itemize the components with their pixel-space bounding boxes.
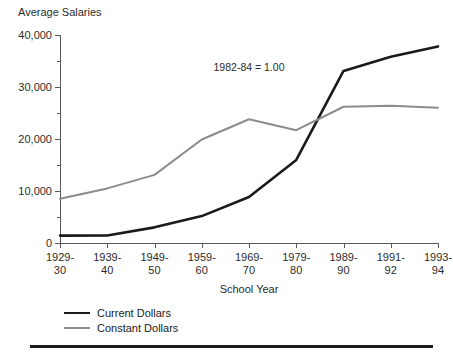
- x-tick-label-line: 80: [282, 264, 310, 277]
- x-tick-label-line: 1979-: [282, 251, 310, 264]
- x-tick: [249, 243, 250, 248]
- x-tick-label-line: 1939-: [93, 251, 121, 264]
- y-tick-label: 20,000: [18, 133, 52, 145]
- legend-label: Current Dollars: [97, 307, 171, 319]
- x-tick-label-line: 1993-: [424, 251, 452, 264]
- x-tick-label-line: 1929-: [46, 251, 74, 264]
- data-lines: [60, 35, 438, 243]
- x-tick-label-line: 60: [188, 264, 216, 277]
- legend-swatch-icon: [64, 327, 90, 329]
- x-tick: [60, 243, 61, 248]
- x-tick: [391, 243, 392, 248]
- x-tick-label: 1929-30: [46, 251, 74, 277]
- legend-item-constant-dollars[interactable]: Constant Dollars: [64, 320, 178, 335]
- x-tick-label: 1959-60: [188, 251, 216, 277]
- x-tick-label-line: 1989-: [329, 251, 357, 264]
- x-tick-label: 1989-90: [329, 251, 357, 277]
- x-tick-label-line: 90: [329, 264, 357, 277]
- x-tick-label-line: 1949-: [140, 251, 168, 264]
- y-axis-title: Average Salaries: [18, 6, 102, 18]
- x-tick-label: 1979-80: [282, 251, 310, 277]
- x-tick-label-line: 94: [424, 264, 452, 277]
- x-tick-label-line: 1959-: [188, 251, 216, 264]
- y-tick-label: 30,000: [18, 81, 52, 93]
- legend-item-current-dollars[interactable]: Current Dollars: [64, 305, 178, 320]
- x-tick-label-line: 40: [93, 264, 121, 277]
- x-tick-label: 1991-92: [377, 251, 405, 277]
- x-tick-label-line: 1991-: [377, 251, 405, 264]
- x-axis-title: School Year: [60, 283, 438, 295]
- y-tick-label: 0: [46, 237, 52, 249]
- x-tick: [155, 243, 156, 248]
- plot-area: 010,00020,00030,00040,000 1929-301939-40…: [60, 35, 438, 243]
- chart-container: Average Salaries 010,00020,00030,00040,0…: [0, 0, 453, 357]
- legend-swatch-icon: [64, 312, 90, 314]
- x-tick-label-line: 1969-: [235, 251, 263, 264]
- x-tick: [296, 243, 297, 248]
- chart-legend: Current DollarsConstant Dollars: [64, 305, 178, 335]
- x-tick-label: 1949-50: [140, 251, 168, 277]
- x-tick: [438, 243, 439, 248]
- bottom-divider: [30, 345, 433, 348]
- y-tick-label: 10,000: [18, 185, 52, 197]
- x-tick: [107, 243, 108, 248]
- x-tick-label-line: 30: [46, 264, 74, 277]
- x-tick-label-line: 50: [140, 264, 168, 277]
- y-tick-label: 40,000: [18, 29, 52, 41]
- legend-label: Constant Dollars: [97, 322, 178, 334]
- series-line-constant-dollars: [60, 106, 438, 199]
- x-tick: [344, 243, 345, 248]
- x-tick-label: 1969-70: [235, 251, 263, 277]
- x-tick-label: 1993-94: [424, 251, 452, 277]
- x-tick-label: 1939-40: [93, 251, 121, 277]
- x-tick-label-line: 70: [235, 264, 263, 277]
- series-line-current-dollars: [60, 46, 438, 235]
- x-tick: [202, 243, 203, 248]
- x-tick-label-line: 92: [377, 264, 405, 277]
